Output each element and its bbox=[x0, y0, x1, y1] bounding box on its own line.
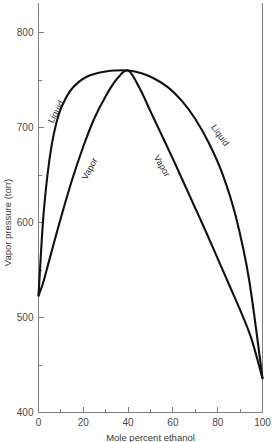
axis-spines bbox=[39, 3, 263, 413]
vapor-pressure-phase-diagram: 400500600700800020406080100 LiquidVaporV… bbox=[0, 0, 279, 442]
x-axis-title: Mole percent ethanol bbox=[106, 432, 195, 442]
liquid-label-right: Liquid bbox=[209, 123, 231, 148]
vapor-label-right: Vapor bbox=[152, 153, 172, 178]
curve-liquid bbox=[39, 70, 263, 378]
y-tick-label: 700 bbox=[17, 122, 34, 133]
x-tick-label: 60 bbox=[167, 417, 179, 428]
x-tick-label: 40 bbox=[123, 417, 135, 428]
curve-annotations: LiquidVaporVaporLiquid bbox=[46, 99, 231, 182]
liquid-label-left: Liquid bbox=[46, 99, 66, 125]
vapor-label-left: Vapor bbox=[80, 156, 100, 181]
y-tick-label: 800 bbox=[17, 27, 34, 38]
x-tick-label: 80 bbox=[212, 417, 224, 428]
axis-tick-labels: 400500600700800020406080100 bbox=[17, 27, 271, 427]
axes bbox=[39, 3, 263, 413]
y-tick-label: 500 bbox=[17, 312, 34, 323]
curve-vapor bbox=[39, 70, 263, 378]
x-tick-label: 0 bbox=[36, 417, 42, 428]
y-tick-label: 600 bbox=[17, 217, 34, 228]
data-curves bbox=[39, 70, 263, 378]
y-axis-title: Vapor pressure (torr) bbox=[2, 179, 13, 266]
x-tick-label: 100 bbox=[254, 417, 271, 428]
chart-canvas: 400500600700800020406080100 LiquidVaporV… bbox=[0, 0, 279, 442]
x-tick-label: 20 bbox=[78, 417, 90, 428]
y-tick-label: 400 bbox=[17, 407, 34, 418]
